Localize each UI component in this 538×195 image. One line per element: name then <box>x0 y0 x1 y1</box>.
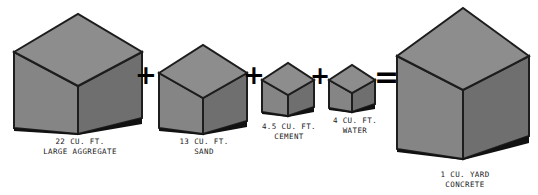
label-large-aggregate: 22 CU. FT. LARGE AGGREGATE <box>10 137 150 156</box>
cube-sand <box>157 42 251 136</box>
cube-large-aggregate <box>12 10 146 136</box>
label-amount: 4 CU. FT. <box>313 116 397 126</box>
label-material: SAND <box>145 147 263 157</box>
result-concrete <box>395 4 533 162</box>
cube-water <box>327 62 379 115</box>
ingredient-large-aggregate <box>12 10 146 136</box>
plus-sign-1: + <box>135 62 157 88</box>
concrete-mix-diagram: 22 CU. FT. LARGE AGGREGATE + 13 CU. FT. … <box>0 0 538 195</box>
label-material: WATER <box>313 126 397 136</box>
cube-concrete <box>395 4 533 162</box>
label-amount: 1 CU. YARD <box>400 170 530 180</box>
label-material: LARGE AGGREGATE <box>10 147 150 157</box>
ingredient-water <box>327 62 379 115</box>
label-amount: 22 CU. FT. <box>10 137 150 147</box>
ingredient-sand <box>157 42 251 136</box>
label-water: 4 CU. FT. WATER <box>313 116 397 135</box>
label-material: CONCRETE <box>400 180 530 190</box>
label-concrete: 1 CU. YARD CONCRETE <box>400 170 530 189</box>
